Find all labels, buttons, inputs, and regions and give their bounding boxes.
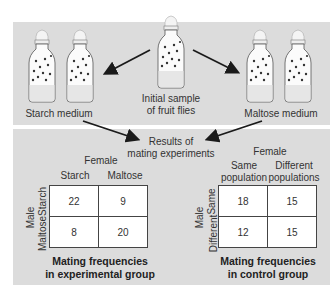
experimental-frequency-table: 22 9 8 20 bbox=[49, 185, 148, 248]
ctl-col-diff-line2: populations bbox=[266, 172, 322, 184]
table-row: 12 15 bbox=[219, 217, 317, 248]
exp-male-header: Male bbox=[25, 198, 36, 238]
maltose-bottle-1-icon bbox=[247, 30, 273, 102]
ctl-title-line1: Mating frequencies bbox=[210, 255, 326, 268]
table-row: 8 20 bbox=[50, 217, 148, 248]
starch-medium-label: Starch medium bbox=[24, 108, 94, 120]
exp-title-line1: Mating frequencies bbox=[40, 255, 160, 268]
results-label: Results of mating experiments bbox=[126, 136, 216, 160]
initial-label-line2: of fruit flies bbox=[140, 105, 202, 117]
initial-sample-label: Initial sample of fruit flies bbox=[140, 93, 202, 117]
ctl-male-header: Male bbox=[194, 198, 205, 238]
initial-bottle-icon bbox=[158, 16, 184, 88]
table-cell: 15 bbox=[268, 186, 317, 217]
table-cell: 18 bbox=[219, 186, 268, 217]
control-frequency-table: 18 15 12 15 bbox=[218, 185, 317, 248]
table-cell: 12 bbox=[219, 217, 268, 248]
ctl-col-header-same: Same population bbox=[218, 160, 270, 184]
experimental-title: Mating frequencies in experimental group bbox=[40, 255, 160, 281]
starch-bottle-2-icon bbox=[67, 30, 93, 102]
maltose-medium-label: Maltose medium bbox=[242, 108, 320, 120]
ctl-col-same-line2: population bbox=[218, 172, 270, 184]
results-line1: Results of bbox=[126, 136, 216, 148]
ctl-col-diff-line1: Different bbox=[266, 160, 322, 172]
exp-female-header: Female bbox=[76, 155, 126, 167]
table-row: 22 9 bbox=[50, 186, 148, 217]
table-cell: 9 bbox=[99, 186, 148, 217]
table-cell: 22 bbox=[50, 186, 99, 217]
ctl-col-same-line1: Same bbox=[218, 160, 270, 172]
control-title: Mating frequencies in control group bbox=[210, 255, 326, 281]
ctl-row-header-different: Different bbox=[208, 212, 219, 256]
exp-col-header-maltose: Maltose bbox=[103, 170, 147, 182]
table-cell: 8 bbox=[50, 217, 99, 248]
exp-col-header-starch: Starch bbox=[55, 170, 95, 182]
table-row: 18 15 bbox=[219, 186, 317, 217]
exp-row-header-maltose: Maltose bbox=[37, 214, 48, 254]
ctl-col-header-different: Different populations bbox=[266, 160, 322, 184]
maltose-bottle-2-icon bbox=[285, 30, 311, 102]
results-line2: mating experiments bbox=[126, 148, 216, 160]
starch-bottle-1-icon bbox=[29, 30, 55, 102]
table-cell: 15 bbox=[268, 217, 317, 248]
initial-label-line1: Initial sample bbox=[140, 93, 202, 105]
table-cell: 20 bbox=[99, 217, 148, 248]
exp-title-line2: in experimental group bbox=[40, 268, 160, 281]
ctl-title-line2: in control group bbox=[210, 268, 326, 281]
ctl-female-header: Female bbox=[245, 146, 295, 158]
